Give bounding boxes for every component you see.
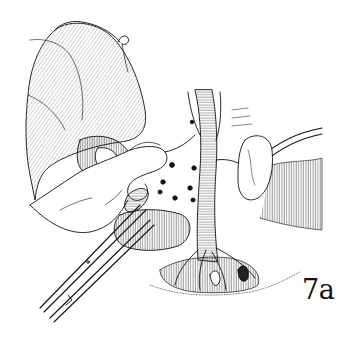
- tissue-flap: [232, 108, 322, 230]
- figure-label: 7a: [302, 276, 334, 303]
- tissue-mass: [114, 210, 190, 251]
- surgical-illustration: [0, 0, 348, 348]
- figure-canvas: 7a: [0, 0, 348, 348]
